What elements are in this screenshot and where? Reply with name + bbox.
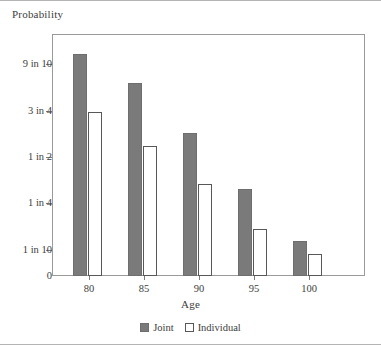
y-tick-label: 0 (8, 271, 52, 281)
x-tick-label: 100 (289, 283, 329, 294)
x-axis-title: Age (0, 298, 381, 310)
x-tick-mark (199, 276, 200, 280)
y-tick-label: 9 in 10 (8, 59, 52, 69)
x-tick-label: 90 (179, 283, 219, 294)
bar-joint-80 (73, 54, 87, 276)
legend-label-individual: Individual (198, 322, 241, 333)
legend-item-individual[interactable]: Individual (185, 322, 241, 333)
bar-joint-90 (183, 133, 197, 276)
x-tick-mark (309, 276, 310, 280)
y-tick-label: 1 in 4 (8, 198, 52, 208)
top-divider-rule (0, 0, 381, 1)
bar-individual-95 (253, 229, 267, 276)
legend-swatch-joint-icon (140, 323, 149, 332)
legend-swatch-individual-icon (185, 323, 194, 332)
bottom-divider-rule (0, 344, 381, 345)
chart-legend: Joint Individual (0, 322, 381, 333)
plot-area (52, 34, 365, 276)
bar-joint-85 (128, 83, 142, 276)
bar-individual-100 (308, 254, 322, 276)
legend-item-joint[interactable]: Joint (140, 322, 173, 333)
x-tick-mark (89, 276, 90, 280)
legend-label-joint: Joint (153, 322, 173, 333)
x-tick-label: 80 (69, 283, 109, 294)
bar-individual-90 (198, 184, 212, 276)
x-tick-label: 95 (234, 283, 274, 294)
bar-joint-100 (293, 241, 307, 276)
x-tick-label: 85 (124, 283, 164, 294)
bar-joint-95 (238, 189, 252, 276)
bar-individual-80 (88, 112, 102, 276)
y-tick-label: 3 in 4 (8, 106, 52, 116)
chart-figure: Probability 9 in 103 in 41 in 21 in 41 i… (0, 0, 381, 351)
x-tick-mark (144, 276, 145, 280)
y-tick-label: 1 in 2 (8, 152, 52, 162)
x-tick-mark (254, 276, 255, 280)
y-tick-label: 1 in 10 (8, 245, 52, 255)
bar-individual-85 (143, 146, 157, 276)
